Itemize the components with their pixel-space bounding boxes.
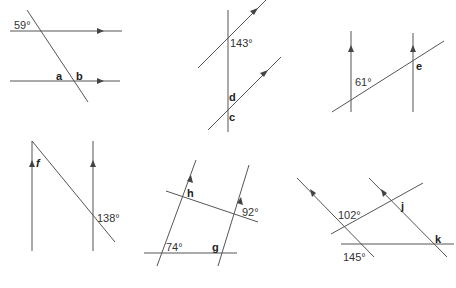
parallel-line-right: [369, 178, 447, 257]
parallel-arrow-icon: [410, 45, 416, 52]
diagram-3-parallel-verticals: 61° e: [332, 31, 444, 112]
variable-e: e: [416, 60, 422, 72]
variable-j: j: [400, 200, 404, 212]
variable-c: c: [229, 111, 235, 123]
angle-label-92: 92°: [242, 206, 259, 218]
angle-label-145: 145°: [343, 251, 366, 263]
angle-label-59: 59°: [14, 19, 31, 31]
parallel-arrow-icon: [310, 189, 316, 197]
variable-a: a: [56, 70, 63, 82]
parallel-arrow-icon: [260, 70, 268, 77]
parallel-line-left: [297, 178, 374, 257]
transversal-line: [27, 10, 88, 102]
variable-b: b: [76, 70, 83, 82]
diagram-4-parallel-verticals: f 138°: [29, 141, 120, 251]
angle-label-102: 102°: [338, 209, 361, 221]
diagram-5-parallelogram-lines: h 92° 74° g: [144, 160, 259, 266]
variable-f: f: [36, 157, 41, 169]
angle-label-61: 61°: [355, 76, 372, 88]
parallel-arrow-icon: [90, 160, 96, 167]
variable-k: k: [435, 233, 442, 245]
transversal-line: [32, 141, 115, 242]
diagram-6-parallel-diagonals: 102° j k 145°: [297, 178, 454, 263]
parallel-arrow-icon: [97, 28, 104, 34]
diagram-1-parallel-horizontals: 59° a b: [10, 10, 122, 102]
parallel-arrow-icon: [29, 160, 35, 167]
angle-label-143: 143°: [230, 37, 253, 49]
parallel-arrow-icon: [97, 78, 104, 84]
variable-d: d: [229, 91, 236, 103]
diagram-2-parallel-diagonals: 143° d c: [198, 0, 281, 132]
angle-label-138: 138°: [97, 212, 120, 224]
angle-label-74: 74°: [166, 241, 183, 253]
variable-g: g: [212, 241, 219, 253]
parallel-line-lower: [208, 57, 281, 130]
parallel-arrow-icon: [250, 8, 258, 15]
variable-h: h: [187, 187, 194, 199]
parallel-arrow-icon: [348, 45, 354, 52]
